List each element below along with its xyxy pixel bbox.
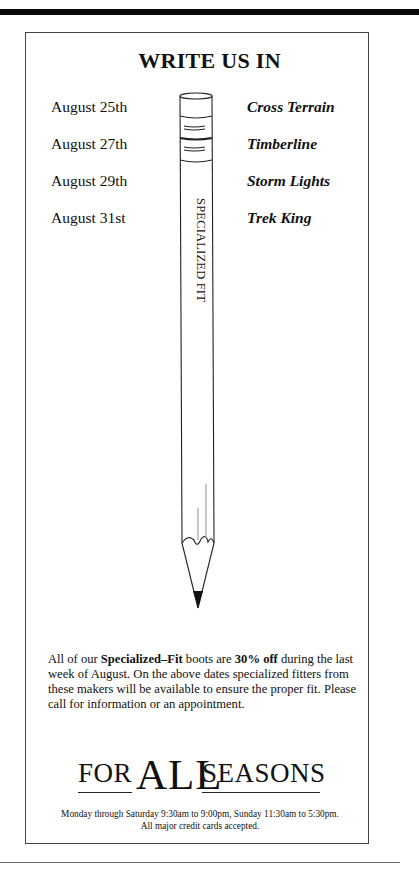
schedule-date: August 25th [51,98,127,116]
brand-highlight: Specialized–Fit [101,652,183,666]
for-all-seasons-logo: FOR ALL SEASONS [78,748,318,800]
logo-for: FOR [78,758,132,789]
schedule-date: August 27th [51,135,127,153]
logo-underline-right [202,792,320,793]
discount-highlight: 30% off [235,652,278,666]
pencil-illustration [170,88,230,618]
bottom-rule [0,862,400,863]
schedule-maker: Cross Terrain [247,98,335,116]
schedule-maker: Trek King [247,209,311,227]
promo-paragraph: All of our Specialized–Fit boots are 30%… [48,652,368,712]
logo-underline-left [78,792,132,793]
credit-card-note: All major credit cards accepted. [30,820,370,832]
hours-line: Monday through Saturday 9:30am to 9:00pm… [30,808,370,820]
store-hours: Monday through Saturday 9:30am to 9:00pm… [30,808,370,832]
ad-title: WRITE US IN [0,48,419,74]
schedule-maker: Storm Lights [247,172,330,190]
top-black-rule [0,9,419,15]
schedule-date: August 31st [51,209,126,227]
pencil-label: SPECIALIZED FIT [190,198,208,348]
schedule-date: August 29th [51,172,127,190]
logo-seasons: SEASONS [202,758,326,789]
schedule-maker: Timberline [247,135,317,153]
